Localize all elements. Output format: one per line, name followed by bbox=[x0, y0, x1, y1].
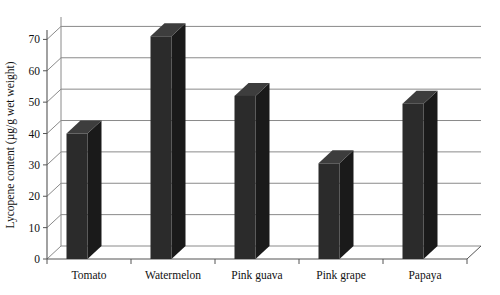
bar-front-face bbox=[319, 163, 340, 259]
y-tick-label: 70 bbox=[29, 33, 41, 45]
bar-side-face bbox=[88, 121, 102, 259]
bar-side-face bbox=[424, 91, 438, 259]
lycopene-bar-chart: 010203040506070 TomatoWatermelonPink gua… bbox=[0, 0, 500, 295]
bar-front-face bbox=[235, 96, 256, 259]
y-tick-label: 10 bbox=[29, 222, 41, 234]
x-tick-label: Pink grape bbox=[316, 269, 366, 282]
y-tick-label: 30 bbox=[29, 159, 41, 171]
y-tick-label: 60 bbox=[29, 65, 41, 77]
y-tick-label: 40 bbox=[29, 128, 41, 140]
bar-watermelon bbox=[151, 23, 186, 259]
bar-pink-grape bbox=[319, 150, 354, 259]
bar-papaya bbox=[403, 91, 438, 259]
x-tick-label: Tomato bbox=[72, 269, 107, 281]
bar-front-face bbox=[151, 36, 172, 259]
x-tick-label: Papaya bbox=[408, 269, 441, 282]
bar-front-face bbox=[67, 134, 88, 259]
bar-side-face bbox=[172, 23, 186, 259]
bar-side-face bbox=[256, 83, 270, 259]
bar-front-face bbox=[403, 104, 424, 259]
bar-pink-guava bbox=[235, 83, 270, 259]
bar-tomato bbox=[67, 121, 102, 259]
y-tick-label: 50 bbox=[29, 96, 41, 108]
y-tick-label: 0 bbox=[34, 253, 40, 265]
y-tick-label: 20 bbox=[29, 190, 41, 202]
y-axis-title: Lycopene content (µg/g wet weight) bbox=[4, 61, 17, 228]
x-tick-label: Watermelon bbox=[145, 269, 201, 281]
chart-canvas: 010203040506070 TomatoWatermelonPink gua… bbox=[0, 0, 500, 295]
x-tick-label: Pink guava bbox=[231, 269, 282, 282]
bar-side-face bbox=[340, 150, 354, 259]
